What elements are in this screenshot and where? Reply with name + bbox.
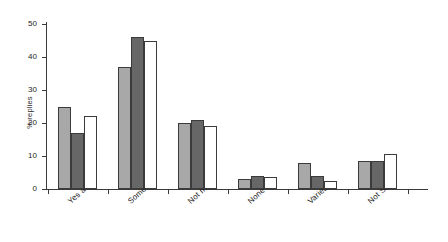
bar [358,161,371,189]
bar [191,120,204,189]
bar [204,126,217,189]
y-tick-label: 30 [17,85,37,94]
y-tick-label: 10 [17,151,37,160]
bar [118,67,131,189]
x-tick-mark [228,190,229,194]
x-tick-mark [348,190,349,194]
bar [264,177,277,189]
y-tick-label: 40 [17,52,37,61]
bar [131,37,144,189]
bar [71,133,84,189]
x-tick-mark [108,190,109,194]
y-tick-label: 50 [17,19,37,28]
bar [144,41,157,190]
bar [298,163,311,189]
bar [84,116,97,189]
x-tick-mark [288,190,289,194]
bar [324,181,337,189]
x-tick-mark [48,190,49,194]
bar [251,176,264,189]
bar [371,161,384,189]
bar [311,176,324,189]
bar [238,179,251,189]
y-axis-line [46,22,47,190]
y-tick-label: 20 [17,118,37,127]
bar [58,107,71,190]
bar-chart: % replies 01020304050 Yes a lotSomeNot m… [0,0,448,242]
y-tick-label: 0 [17,184,37,193]
bar [178,123,191,189]
x-tick-mark [408,190,409,194]
x-axis-line [46,189,428,190]
x-tick-mark [168,190,169,194]
bar [384,154,397,189]
